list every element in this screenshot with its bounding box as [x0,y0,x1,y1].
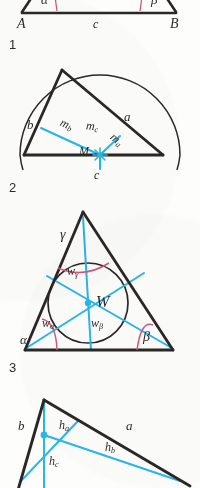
figure-1-label-alpha: α [41,0,48,6]
figure-2-label-side-a: a [124,110,131,123]
figure-1-label-side-c: c [93,18,98,30]
left-side-segment [22,0,38,12]
figure-2-triangle-outline [24,70,163,155]
circumcircle-left-tick [20,155,23,170]
figure-3-label-gamma: γ [60,228,66,242]
figure-3-label-bisector-w-beta: wβ [91,317,103,331]
figure-3-label-bisector-w-alpha: wα [42,317,54,331]
circumcircle-upper-arc [20,75,180,155]
figure-3-label-bisector-w-gamma: wγ [67,265,78,279]
orthocenter-point [41,432,48,439]
beta-angle-arc [140,0,142,11]
figure-1-label-vertex-b: B [170,17,179,31]
triangle-side-b [18,400,44,488]
incenter-point [85,300,91,306]
circumcenter-point [97,152,102,157]
figure-3-incircle: γ α β W wγ wα wβ 3 [0,200,200,378]
figure-4-label-side-b: b [18,419,25,432]
figure-2-caption-number: 2 [9,181,16,194]
figure-3-label-alpha: α [20,333,27,346]
triangle-side-b [24,70,62,155]
figure-1-triangle-base-angles: α β A B c 1 [0,0,200,52]
figure-2-circumcircle: b a c M mb mc ma 2 [0,52,200,200]
figure-1-label-beta: β [151,0,157,6]
circumcircle-right-tick [177,155,180,170]
figure-2-label-bisector-mc: mc [85,119,99,134]
figure-4-altitudes-lines [20,403,180,488]
figure-3-label-center-w: W [96,294,109,310]
figure-3-label-beta: β [143,330,150,344]
figure-4-label-altitude-hb: hb [105,441,115,455]
figure-1-caption-number: 1 [9,38,16,51]
figure-4-altitudes: b a ha hb hc [0,378,200,488]
textbook-page: α β A B c 1 [0,0,200,488]
figure-1-label-vertex-a: A [17,17,26,31]
figure-4-drawing [0,378,200,488]
figure-2-label-side-c: c [94,169,99,181]
figure-3-drawing [0,200,200,378]
figure-3-caption-number: 3 [9,361,16,374]
alpha-angle-arc [55,0,57,11]
figure-4-label-altitude-hc: hc [49,455,59,469]
figure-4-label-altitude-ha: ha [59,419,69,433]
figure-4-label-side-a: a [126,419,133,432]
angle-bisector-w-gamma [83,217,91,350]
figure-1-angle-arcs [55,0,142,11]
right-side-segment [160,0,176,12]
figure-2-label-side-b: b [27,118,34,131]
figure-2-label-center-m: M [79,145,89,157]
